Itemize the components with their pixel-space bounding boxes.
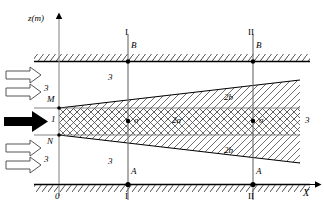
point-N-label: N [47,137,53,146]
lower-transition-thickness-label: 2b [224,146,233,155]
zone-label-right-outer: 3 [305,116,310,125]
zone-label-upper-outer: 3 [108,73,113,82]
stress-symbol-section-2: σ [259,116,263,125]
section-1-point-B: B [131,41,137,50]
section-2-point-A: A [256,167,262,176]
origin-label: 0 [55,192,60,201]
lower-wall-boundary [34,185,310,193]
zone-label-lower-outer: 3 [108,157,113,166]
section-2-point-B: B [256,41,262,50]
z-axis-label: z(m) [28,14,44,23]
inflow-arrow-upper-2 [6,84,41,100]
point-N-marker [57,133,61,137]
point-M-label: M [47,95,55,104]
zone-label-inflow-lower: 3 [44,155,49,164]
section-1-bottom-label: I [125,192,128,201]
figure-canvas: z(m) X 0 I B A I II B A II M N 3 3 1 3 3… [0,0,324,221]
lower-transition-zone [59,135,300,163]
diagram-graphics [0,0,324,221]
x-axis-label: X [303,188,309,198]
zone-label-main-inflow: 1 [51,115,56,124]
section-1-top-label: I [125,28,128,37]
inflow-arrow-lower-2 [6,157,41,173]
core-thickness-label: 2a [172,116,181,125]
upper-transition-thickness-label: 2b [224,93,233,102]
inflow-arrow-lower-1 [6,140,41,156]
section-2-bottom-label: II [248,192,254,201]
section-1-point-A: A [131,167,137,176]
inflow-arrow-upper-1 [6,67,41,83]
section-2-top-label: II [248,28,254,37]
upper-wall-boundary [34,54,310,62]
main-inflow-arrow [4,111,48,132]
stress-symbol-section-1: σ [134,116,138,125]
zone-label-inflow-upper: 3 [44,84,49,93]
point-M-marker [57,106,61,110]
